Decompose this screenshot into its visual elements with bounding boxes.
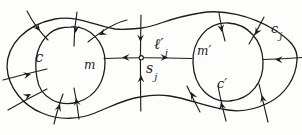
separatrix-vertical [140, 15, 141, 111]
separatrix-horizontal [104, 58, 192, 59]
right-cycle-cprime [193, 23, 263, 101]
label-c-left: c [35, 48, 44, 66]
saddle-point [139, 56, 143, 60]
phase-portrait-svg: c m ℓ′j sj m′ c′ cj [0, 0, 302, 135]
label-c-prime: c′ [217, 76, 227, 91]
label-s-j-base: s [146, 60, 153, 76]
label-l-prime-j: ℓ′j [154, 35, 168, 58]
flow-line [8, 89, 47, 110]
label-c-j: cj [271, 21, 282, 41]
arrow-icon [275, 56, 283, 63]
label-m: m [84, 58, 95, 72]
flow-line [27, 11, 48, 40]
label-s-j: sj [146, 60, 157, 82]
label-c-j-base: c [271, 21, 279, 36]
flow-line [187, 86, 200, 112]
phase-portrait-figure: c m ℓ′j sj m′ c′ cj [0, 0, 302, 135]
label-l-prime-j-base: ℓ′ [154, 35, 164, 53]
flow-line-right-entry [263, 58, 302, 60]
flow-line [54, 94, 63, 124]
label-m-prime: m′ [197, 44, 211, 58]
